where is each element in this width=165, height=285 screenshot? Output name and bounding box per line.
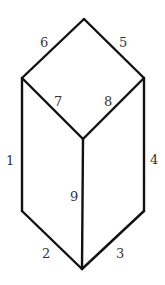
edge-label-5: 5 xyxy=(119,35,127,50)
edge-9 xyxy=(82,139,83,269)
edge-7 xyxy=(22,78,83,139)
edge-8 xyxy=(83,78,144,139)
prism-edge-diagram: 1 2 3 4 5 6 7 8 9 xyxy=(0,0,165,285)
edge-label-7: 7 xyxy=(54,94,62,109)
edge-label-6: 6 xyxy=(40,35,48,50)
edge-label-4: 4 xyxy=(150,152,158,167)
edge-label-3: 3 xyxy=(116,246,124,261)
edge-6 xyxy=(22,19,84,78)
edge-label-2: 2 xyxy=(42,246,50,261)
edge-5 xyxy=(84,19,144,78)
edge-3 xyxy=(82,211,144,269)
edge-label-8: 8 xyxy=(104,94,112,109)
edge-label-9: 9 xyxy=(70,189,78,204)
edge-2 xyxy=(22,211,82,269)
edge-label-1: 1 xyxy=(6,153,14,168)
